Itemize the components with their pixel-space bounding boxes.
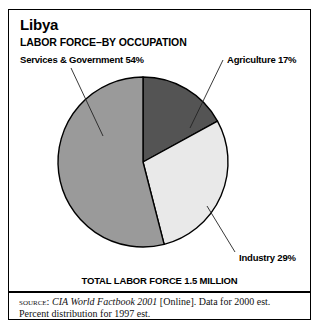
pie-chart: [9, 10, 309, 318]
leader-line-industry: [207, 206, 235, 252]
source-work-title: CIA World Factbook 2001: [52, 296, 157, 307]
source-line-two: Percent distribution for 1997 est.: [19, 308, 150, 319]
source-note: SOURCE: CIA World Factbook 2001 [Online]…: [19, 296, 302, 319]
source-kicker: SOURCE:: [19, 296, 50, 307]
total-labor-force-caption: TOTAL LABOR FORCE 1.5 MILLION: [9, 275, 310, 286]
source-detail: [Online]. Data for 2000 est.: [160, 296, 271, 307]
figure-panel: Libya LABOR FORCE–BY OCCUPATION Services…: [8, 9, 311, 320]
divider: [9, 291, 310, 293]
